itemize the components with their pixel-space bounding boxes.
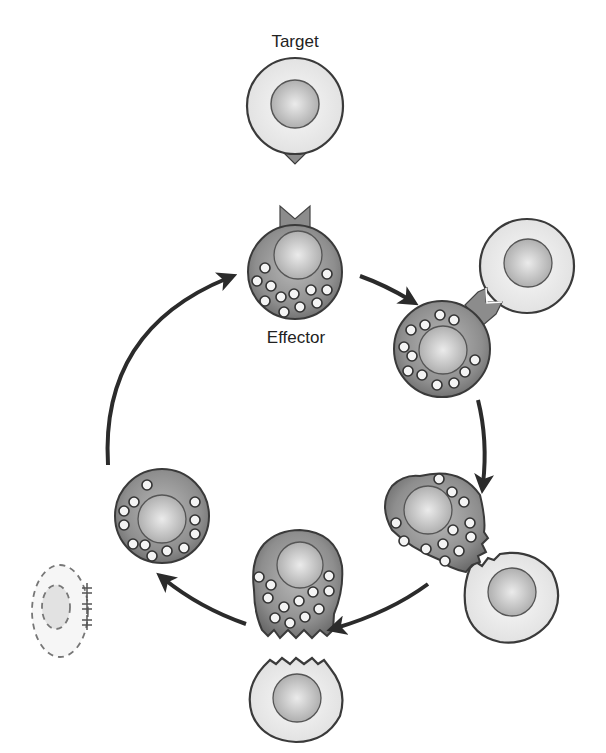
arrow-degranulation-to-recovery xyxy=(164,579,246,624)
arrow-polarization-to-degranulation xyxy=(336,584,428,628)
polarization-stage xyxy=(385,473,558,642)
degranulation-stage xyxy=(250,530,343,742)
target-label: Target xyxy=(271,32,318,52)
effector-cell-resting xyxy=(248,206,342,319)
effector-label: Effector xyxy=(267,328,325,348)
effector-cell-recovery xyxy=(115,469,209,563)
arrow-effector-to-recognition xyxy=(360,276,410,300)
arrow-recovery-to-effector xyxy=(108,278,228,465)
recognition-stage xyxy=(394,219,574,397)
apoptotic-target-cell xyxy=(32,565,92,657)
target-cell-top xyxy=(247,58,343,164)
target-nucleus xyxy=(271,80,319,128)
arrow-recognition-to-polarization xyxy=(478,400,485,484)
cytotoxic-cycle-diagram xyxy=(0,0,606,753)
